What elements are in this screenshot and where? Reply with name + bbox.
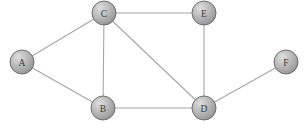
graph-diagram: ABCDEF (0, 0, 304, 129)
graph-node-d[interactable]: D (192, 96, 216, 120)
node-label-b: B (100, 104, 107, 114)
graph-canvas: ABCDEF (0, 0, 304, 129)
edge-layer (22, 13, 286, 108)
graph-node-c[interactable]: C (92, 1, 116, 25)
node-label-c: C (101, 9, 108, 19)
graph-node-a[interactable]: A (10, 50, 34, 74)
graph-node-b[interactable]: B (91, 96, 115, 120)
graph-edge-a-c (22, 13, 104, 62)
node-label-e: E (201, 9, 207, 19)
graph-edge-d-f (204, 62, 286, 108)
node-label-d: D (200, 104, 207, 114)
graph-node-e[interactable]: E (192, 1, 216, 25)
graph-edge-a-b (22, 62, 103, 108)
graph-edge-c-b (103, 13, 104, 108)
graph-node-f[interactable]: F (274, 50, 298, 74)
node-label-f: F (283, 58, 288, 68)
graph-edge-c-d (104, 13, 204, 108)
node-label-a: A (18, 58, 25, 68)
